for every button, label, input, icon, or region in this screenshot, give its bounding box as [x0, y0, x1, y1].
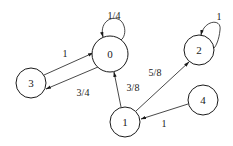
node-4: 4	[188, 85, 218, 115]
markov-chain-diagram: 1/4 1 3/4 3/8 5/8 1 1 0 1 2 3 4	[0, 0, 233, 146]
node-2: 2	[184, 35, 214, 65]
edge-label-0-3: 3/4	[77, 87, 90, 98]
edge-label-2-2: 1	[217, 11, 222, 22]
edge-label-3-0: 1	[63, 48, 68, 59]
edge-label-0-0: 1/4	[108, 10, 121, 21]
node-label-3: 3	[28, 77, 34, 89]
edge-label-1-2: 5/8	[149, 67, 162, 78]
edge-1-to-0	[114, 72, 121, 107]
edge-3-to-0	[44, 53, 93, 75]
node-label-1: 1	[122, 116, 128, 128]
edge-label-4-1: 1	[162, 118, 167, 129]
node-label-0: 0	[107, 48, 113, 60]
edge-1-to-2	[136, 62, 189, 111]
node-0: 0	[92, 36, 128, 72]
edge-label-1-0: 3/8	[127, 82, 140, 93]
node-label-4: 4	[200, 94, 206, 106]
node-label-2: 2	[196, 44, 202, 56]
node-3: 3	[16, 68, 46, 98]
node-1: 1	[110, 107, 140, 137]
